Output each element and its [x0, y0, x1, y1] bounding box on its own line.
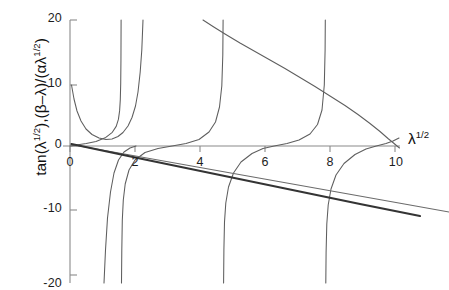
x-tick-label-0: 0 — [60, 155, 80, 169]
x-axis-label-exponent: 1/2 — [416, 129, 429, 140]
y-axis-label: tan(λ1/2),(β–λ)/(αλ1/2) — [32, 0, 50, 232]
y-label-lambda-1: λ — [32, 141, 49, 149]
y-label-exp-2: 1/2 — [31, 43, 42, 56]
y-tick-label-neg20: -20 — [32, 276, 62, 290]
y-label-alpha: α — [32, 64, 49, 73]
y-label-tan: tan( — [32, 149, 49, 176]
x-axis-label-lambda: λ — [408, 130, 416, 147]
x-tick-label-2: 2 — [125, 155, 145, 169]
y-label-sep-1: ),( — [32, 113, 49, 128]
beta-curve-main — [203, 20, 400, 148]
y-label-beta: β — [32, 104, 49, 113]
x-axis-label: λ1/2 — [408, 130, 429, 148]
tan-curve — [70, 20, 399, 283]
shallow-line-thick — [72, 144, 421, 216]
plot-canvas — [0, 0, 449, 290]
x-tick-label-6: 6 — [255, 155, 275, 169]
x-tick-label-8: 8 — [320, 155, 340, 169]
y-label-minus: – — [32, 96, 49, 105]
plot-figure: 20 10 0 -10 -20 0 2 4 6 8 10 λ1/2 tan(λ1… — [0, 0, 449, 290]
y-tick-marks — [70, 20, 77, 275]
x-tick-label-10: 10 — [383, 155, 409, 169]
y-label-sep-2: )/( — [32, 73, 49, 88]
y-label-lambda-2: λ — [32, 88, 49, 96]
x-tick-label-4: 4 — [190, 155, 210, 169]
y-label-sep-3: ) — [32, 38, 49, 43]
x-tick-marks — [70, 146, 395, 152]
y-label-exp-1: 1/2 — [31, 128, 42, 141]
y-label-lambda-3: λ — [32, 57, 49, 65]
